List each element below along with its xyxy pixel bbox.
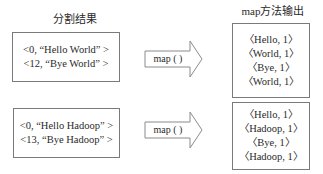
output-pair: 〈Bye, 1〉: [247, 136, 294, 150]
map-output-box-2: 〈Hello, 1〉 〈Hadoop, 1〉 〈Bye, 1〉 〈Hadoop,…: [232, 102, 310, 170]
split-line: <0, “Hello World” >: [23, 43, 109, 57]
map-output-box-1: 〈Hello, 1〉 〈World, 1〉 〈Bye, 1〉 〈World, 1…: [232, 23, 310, 98]
output-pair: 〈Hadoop, 1〉: [239, 150, 303, 164]
split-box-1: <0, “Hello World” > <12, “Bye World” >: [12, 32, 120, 82]
split-line: <0, “Hello Hadoop” >: [20, 119, 114, 133]
split-results-title: 分割结果: [40, 10, 110, 26]
output-pair: 〈Hello, 1〉: [244, 108, 298, 122]
split-box-2: <0, “Hello Hadoop” > <13, “Bye Hadoop” >: [13, 108, 120, 158]
output-pair: 〈Hadoop, 1〉: [239, 122, 303, 136]
map-arrow-label-2: map ( ): [145, 124, 191, 135]
output-pair: 〈Hello, 1〉: [244, 33, 298, 47]
split-line: <12, “Bye World” >: [24, 57, 109, 71]
map-arrow-label-1: map ( ): [145, 53, 191, 64]
output-pair: 〈Bye, 1〉: [247, 61, 294, 75]
output-pair: 〈World, 1〉: [243, 75, 299, 89]
split-line: <13, “Bye Hadoop” >: [20, 133, 112, 147]
output-pair: 〈World, 1〉: [243, 47, 299, 61]
map-output-title: map方法输出: [236, 2, 310, 18]
